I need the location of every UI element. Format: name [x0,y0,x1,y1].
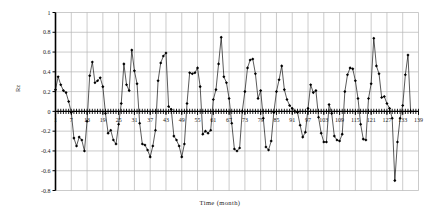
svg-text:91: 91 [289,117,295,123]
svg-text:73: 73 [242,117,248,123]
y-tick-labels: 10.80.60.40.20-0.2-0.4-0.6-0.8 [41,10,51,194]
svg-text:139: 139 [414,117,423,123]
svg-text:43: 43 [163,117,169,123]
svg-text:103: 103 [319,117,328,123]
svg-text:127: 127 [382,117,391,123]
svg-text:-0.8: -0.8 [41,188,51,194]
x-tick-labels: 1713192531374349556167737985919710310911… [54,117,423,123]
x-axis-title: Time (month) [0,199,440,206]
axis-lines [56,13,419,191]
svg-text:-0.4: -0.4 [41,148,51,154]
svg-text:31: 31 [131,117,137,123]
svg-text:55: 55 [195,117,201,123]
svg-text:0.6: 0.6 [43,49,51,55]
svg-text:49: 49 [179,117,185,123]
svg-text:0: 0 [48,109,51,115]
line-chart-plot: 10.80.60.40.20-0.2-0.4-0.6-0.8 171319253… [0,0,440,220]
svg-text:97: 97 [305,117,311,123]
chart-container: Rz Time (month) 10.80.60.40.20-0.2-0.4-0… [0,0,440,220]
grid-lines [56,13,419,191]
svg-text:0.2: 0.2 [43,89,51,95]
svg-text:115: 115 [351,117,360,123]
data-series-line [56,37,411,180]
svg-text:19: 19 [100,117,106,123]
svg-text:1: 1 [48,10,51,16]
svg-text:-0.6: -0.6 [41,168,51,174]
svg-text:0.4: 0.4 [43,69,51,75]
svg-text:37: 37 [147,117,153,123]
svg-text:121: 121 [367,117,376,123]
svg-text:-0.2: -0.2 [41,128,51,134]
svg-text:85: 85 [273,117,279,123]
svg-text:0.8: 0.8 [43,29,51,35]
y-axis-title: Rz [14,85,21,92]
